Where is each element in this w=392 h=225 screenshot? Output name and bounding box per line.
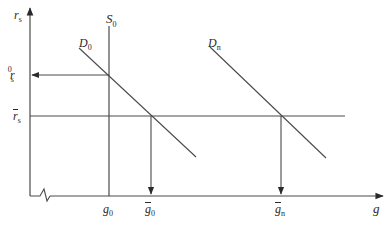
x-axis-break	[30, 189, 50, 201]
rs-bar-label: rs	[13, 110, 21, 125]
rs0-label: rs0	[10, 68, 18, 84]
diagram: rs rs0 rs S0 D0 Dn g0 g0 gn g	[0, 0, 392, 225]
demand-curve-dn	[210, 47, 326, 158]
s0-label: S0	[106, 12, 117, 29]
x-axis-label: g	[373, 202, 380, 215]
diagram-canvas	[0, 0, 392, 225]
g0-tick-label: g0	[103, 203, 113, 218]
dn-label: Dn	[208, 37, 221, 52]
gn-bar-tick-label: gn	[275, 203, 285, 218]
demand-curve-d0	[79, 48, 196, 157]
d0-label: D0	[79, 37, 92, 52]
y-axis-label: rs	[14, 9, 22, 24]
g0-bar-tick-label: g0	[145, 203, 155, 218]
